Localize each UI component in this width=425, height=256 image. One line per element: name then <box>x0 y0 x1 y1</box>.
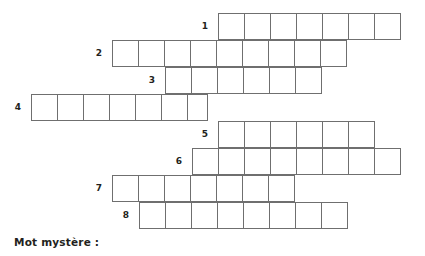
puzzle-row-number-5: 5 <box>194 130 208 139</box>
puzzle-cell[interactable] <box>244 13 271 40</box>
puzzle-cell[interactable] <box>322 148 349 175</box>
puzzle-cell[interactable] <box>270 13 297 40</box>
puzzle-row-3 <box>165 67 321 94</box>
puzzle-cell[interactable] <box>296 148 323 175</box>
mystery-word-label: Mot mystère : <box>14 236 99 248</box>
puzzle-cell[interactable] <box>294 40 321 67</box>
puzzle-cell[interactable] <box>269 67 296 94</box>
puzzle-cell[interactable] <box>191 202 218 229</box>
puzzle-cell[interactable] <box>216 40 243 67</box>
puzzle-cell[interactable] <box>374 148 401 175</box>
puzzle-cell[interactable] <box>320 40 347 67</box>
puzzle-cell[interactable] <box>348 148 375 175</box>
puzzle-cell[interactable] <box>348 13 375 40</box>
puzzle-cell[interactable] <box>269 202 296 229</box>
crossword-puzzle: 1 2 3 <box>0 0 425 256</box>
puzzle-cell[interactable] <box>112 175 139 202</box>
puzzle-cell[interactable] <box>192 148 219 175</box>
puzzle-cell[interactable] <box>161 94 188 121</box>
puzzle-cell[interactable] <box>190 175 217 202</box>
puzzle-cell[interactable] <box>270 121 297 148</box>
puzzle-cell[interactable] <box>243 67 270 94</box>
puzzle-row-1 <box>218 13 400 40</box>
puzzle-row-5 <box>218 121 374 148</box>
puzzle-cell[interactable] <box>321 202 348 229</box>
puzzle-cell[interactable] <box>138 175 165 202</box>
puzzle-grid: 1 2 3 <box>0 0 425 256</box>
puzzle-row-4 <box>31 94 207 121</box>
puzzle-cell[interactable] <box>296 13 323 40</box>
puzzle-cell[interactable] <box>243 202 270 229</box>
puzzle-cell[interactable] <box>217 202 244 229</box>
puzzle-cell[interactable] <box>187 94 208 121</box>
puzzle-row-number-8: 8 <box>115 211 129 220</box>
puzzle-cell[interactable] <box>268 40 295 67</box>
puzzle-row-number-2: 2 <box>88 49 102 58</box>
puzzle-cell[interactable] <box>374 13 401 40</box>
puzzle-row-7 <box>112 175 294 202</box>
puzzle-cell[interactable] <box>322 121 349 148</box>
puzzle-row-number-4: 4 <box>7 103 21 112</box>
puzzle-cell[interactable] <box>268 175 295 202</box>
puzzle-cell[interactable] <box>296 121 323 148</box>
puzzle-cell[interactable] <box>295 67 322 94</box>
puzzle-cell[interactable] <box>242 175 269 202</box>
puzzle-cell[interactable] <box>217 67 244 94</box>
puzzle-cell[interactable] <box>139 202 166 229</box>
puzzle-cell[interactable] <box>270 148 297 175</box>
puzzle-row-number-7: 7 <box>88 184 102 193</box>
puzzle-cell[interactable] <box>83 94 110 121</box>
puzzle-cell[interactable] <box>218 121 245 148</box>
puzzle-cell[interactable] <box>164 40 191 67</box>
puzzle-cell[interactable] <box>138 40 165 67</box>
puzzle-cell[interactable] <box>164 175 191 202</box>
puzzle-cell[interactable] <box>244 121 271 148</box>
puzzle-cell[interactable] <box>57 94 84 121</box>
puzzle-cell[interactable] <box>135 94 162 121</box>
puzzle-row-6 <box>192 148 400 175</box>
puzzle-cell[interactable] <box>112 40 139 67</box>
puzzle-cell[interactable] <box>348 121 375 148</box>
puzzle-cell[interactable] <box>165 67 192 94</box>
puzzle-cell[interactable] <box>242 40 269 67</box>
puzzle-row-number-6: 6 <box>168 157 182 166</box>
puzzle-cell[interactable] <box>322 13 349 40</box>
puzzle-cell[interactable] <box>109 94 136 121</box>
puzzle-cell[interactable] <box>31 94 58 121</box>
puzzle-cell[interactable] <box>218 148 245 175</box>
puzzle-cell[interactable] <box>191 67 218 94</box>
puzzle-row-number-3: 3 <box>141 76 155 85</box>
puzzle-cell[interactable] <box>216 175 243 202</box>
puzzle-row-2 <box>112 40 346 67</box>
puzzle-cell[interactable] <box>190 40 217 67</box>
puzzle-cell[interactable] <box>218 13 245 40</box>
puzzle-row-8 <box>139 202 347 229</box>
puzzle-cell[interactable] <box>165 202 192 229</box>
puzzle-cell[interactable] <box>244 148 271 175</box>
puzzle-cell[interactable] <box>295 202 322 229</box>
puzzle-row-number-1: 1 <box>194 22 208 31</box>
